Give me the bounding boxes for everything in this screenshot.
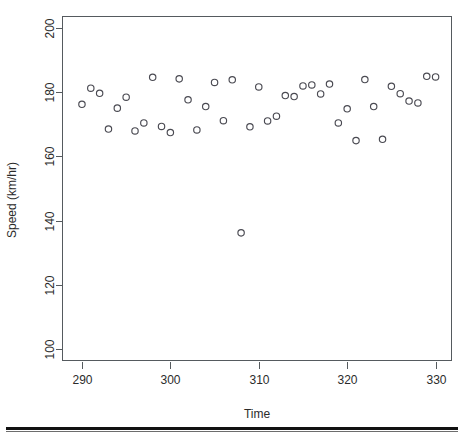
x-tick-label: 290 <box>72 373 92 387</box>
plot-canvas: 100120140160180200 290300310320330 Time … <box>0 0 465 441</box>
x-tick-label: 330 <box>426 373 446 387</box>
x-axis-title: Time <box>244 407 271 421</box>
page-root: 100120140160180200 290300310320330 Time … <box>0 0 465 441</box>
y-axis-title: Speed (km/hr) <box>5 162 19 238</box>
footer-divider-rule-secondary <box>6 431 458 432</box>
y-tick-label: 140 <box>43 211 57 231</box>
y-tick-label: 160 <box>43 146 57 166</box>
y-tick-label: 180 <box>43 82 57 102</box>
x-tick-label: 320 <box>337 373 357 387</box>
y-tick-label: 120 <box>43 275 57 295</box>
x-tick-label: 300 <box>160 373 180 387</box>
scatter-plot-figure: 100120140160180200 290300310320330 Time … <box>0 0 465 441</box>
plot-background <box>0 0 465 441</box>
y-tick-label: 100 <box>43 339 57 359</box>
x-tick-label: 310 <box>249 373 269 387</box>
y-tick-label: 200 <box>43 18 57 38</box>
footer-divider-rule <box>6 427 458 430</box>
